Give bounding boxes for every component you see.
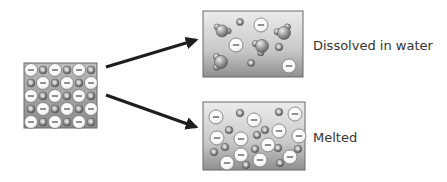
solid-lattice-box [24, 63, 98, 129]
cation [27, 105, 35, 113]
arrow-to-melted [106, 95, 196, 127]
anion [288, 107, 302, 121]
cation [51, 79, 59, 87]
anion [85, 103, 98, 116]
cation [276, 159, 284, 167]
cation [39, 66, 47, 74]
anion [73, 90, 86, 103]
anion [85, 77, 98, 90]
anion [210, 131, 224, 145]
cation [75, 79, 83, 87]
anion [73, 64, 86, 77]
cation [251, 145, 259, 153]
anion [234, 148, 248, 162]
cation [248, 60, 255, 67]
cation [87, 66, 95, 74]
anion [229, 38, 243, 52]
cation [242, 161, 250, 169]
cation [63, 92, 71, 100]
cation [253, 131, 261, 139]
cation [261, 126, 269, 134]
arrow-to-dissolved [106, 40, 196, 67]
cation [87, 92, 95, 100]
cation [236, 109, 244, 117]
anion [49, 90, 62, 103]
cation [75, 105, 83, 113]
anion [49, 64, 62, 77]
cation [275, 108, 283, 116]
anion [37, 77, 50, 90]
cation [294, 145, 302, 153]
cation [237, 19, 244, 26]
anion [292, 129, 306, 143]
anion [261, 138, 275, 152]
anion [234, 132, 248, 146]
cation [210, 148, 218, 156]
anion [220, 156, 234, 170]
cation [39, 118, 47, 126]
anion [37, 103, 50, 116]
anion [209, 110, 223, 124]
anion [61, 103, 74, 116]
cation [221, 143, 229, 151]
anion [25, 90, 38, 103]
cation [27, 79, 35, 87]
cation [275, 43, 283, 51]
anion [25, 116, 38, 129]
anion [272, 124, 286, 138]
anion [73, 116, 86, 129]
anion [283, 150, 297, 164]
dissolved-in-water-label: Dissolved in water [313, 38, 433, 53]
cation [63, 66, 71, 74]
cation [63, 118, 71, 126]
cation [225, 126, 233, 134]
cation [87, 118, 95, 126]
anion [49, 116, 62, 129]
dissolved-in-water-box [203, 11, 303, 77]
anion [282, 59, 296, 73]
anion [253, 153, 267, 167]
melted-box [203, 102, 306, 170]
anion [61, 77, 74, 90]
cation [39, 92, 47, 100]
ionic-states-diagram [0, 0, 447, 182]
anion [25, 64, 38, 77]
anion [247, 113, 261, 127]
cation [51, 105, 59, 113]
melted-label: Melted [313, 130, 357, 145]
anion [254, 18, 268, 32]
